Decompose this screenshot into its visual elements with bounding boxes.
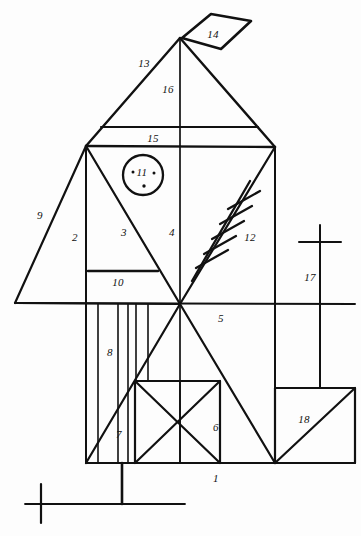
circle-dot-left <box>132 171 135 174</box>
label-12: 12 <box>244 231 256 243</box>
ladder-rung-5 <box>228 191 260 209</box>
circle-dot-bottom <box>142 184 145 187</box>
label-14: 14 <box>207 28 219 40</box>
label-7: 7 <box>116 428 122 440</box>
roof-right-slope <box>180 38 275 147</box>
label-4: 4 <box>169 226 175 238</box>
label-2: 2 <box>72 231 78 243</box>
label-17: 17 <box>304 271 316 283</box>
sketch-canvas: 1 2 3 4 5 6 7 8 9 10 11 12 13 14 15 16 1… <box>0 0 361 536</box>
label-10: 10 <box>112 276 124 288</box>
diagonal-lower-left <box>86 304 180 463</box>
label-16: 16 <box>162 83 174 95</box>
label-13: 13 <box>138 57 150 69</box>
label-11: 11 <box>137 166 148 178</box>
label-5: 5 <box>218 312 224 324</box>
left-triangle-hypotenuse <box>15 146 86 303</box>
label-6: 6 <box>213 421 219 433</box>
mid-horizontal-line <box>15 303 355 304</box>
label-1: 1 <box>213 472 219 484</box>
line-drawing <box>0 0 361 536</box>
label-18: 18 <box>298 413 310 425</box>
diagonal-upper-right <box>180 147 275 304</box>
label-15: 15 <box>147 132 159 144</box>
label-9: 9 <box>37 209 43 221</box>
diagonal-3-upper-left <box>86 146 180 304</box>
label-3: 3 <box>121 226 127 238</box>
box18-diagonal <box>275 388 355 463</box>
ladder-rung-4 <box>220 206 252 224</box>
circle-dot-right <box>153 172 156 175</box>
label-8: 8 <box>107 346 113 358</box>
